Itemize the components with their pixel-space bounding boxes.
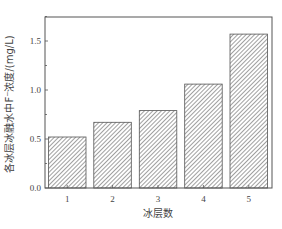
bar-chart: 0.00.51.01.5 12345 冰层数 各冰层冰融水中F⁻浓度/(mg/L… (0, 0, 282, 229)
bar-4 (185, 84, 223, 188)
x-axis-title: 冰层数 (143, 207, 173, 219)
x-tick-label: 2 (110, 194, 115, 204)
bar-3 (139, 111, 177, 188)
bar-5 (230, 34, 268, 188)
x-tick-label: 3 (156, 194, 161, 204)
x-tick-label: 5 (247, 194, 252, 204)
bars-group (49, 34, 268, 188)
x-tick-label: 4 (201, 194, 206, 204)
y-tick-label: 1.0 (30, 85, 42, 95)
y-tick-label: 0.5 (30, 134, 42, 144)
x-tick-label: 1 (65, 194, 70, 204)
y-axis-title: 各冰层冰融水中F⁻浓度/(mg/L) (3, 35, 15, 172)
bar-2 (94, 122, 132, 188)
y-tick-label: 0.0 (30, 183, 42, 193)
bar-1 (49, 137, 87, 188)
y-tick-label: 1.5 (30, 36, 42, 46)
